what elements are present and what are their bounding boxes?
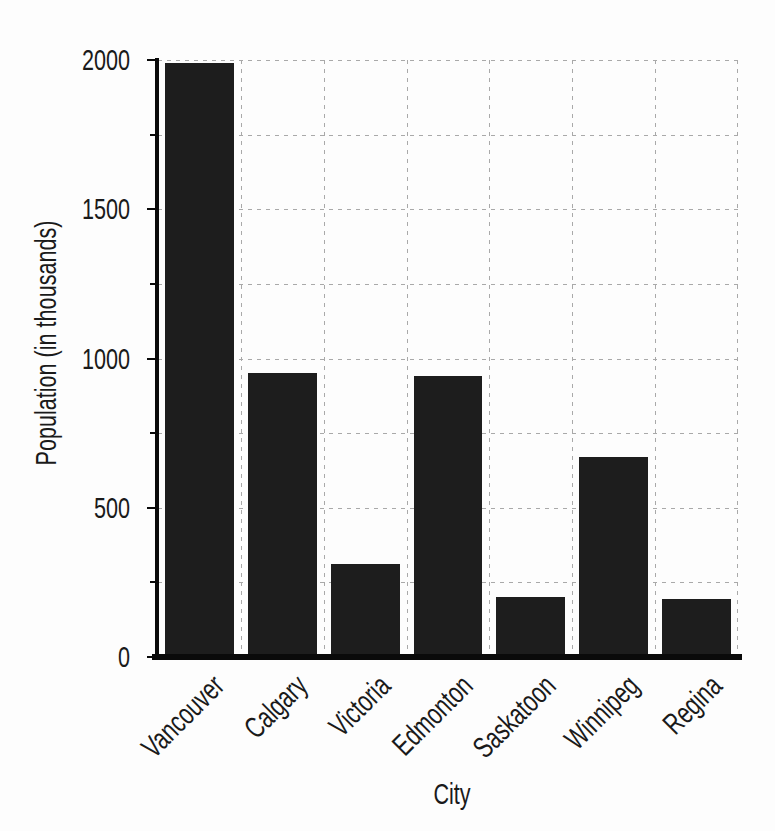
gridline-v-6 <box>655 60 656 657</box>
bar-edmonton <box>414 376 483 657</box>
gridline-v-3 <box>407 60 408 657</box>
y-axis-line <box>155 58 159 660</box>
gridline-h-1000 <box>158 359 738 360</box>
x-tick-label-calgary: Calgary <box>239 670 313 744</box>
bar-victoria <box>331 564 400 657</box>
x-tick-label-saskatoon: Saskatoon <box>468 670 561 763</box>
y-tick-2000 <box>147 59 155 61</box>
x-tick-label-regina: Regina <box>657 670 727 740</box>
bar-regina <box>662 599 731 657</box>
bar-vancouver <box>165 63 234 657</box>
x-tick-label-vancouver: Vancouver <box>137 670 230 763</box>
x-tick-label-edmonton: Edmonton <box>387 670 478 761</box>
gridline-h-2000 <box>158 60 738 61</box>
y-tick-label-500: 500 <box>36 492 130 524</box>
x-tick-label-victoria: Victoria <box>323 670 395 742</box>
y-tick-label-1000: 1000 <box>36 343 130 375</box>
gridline-v-2 <box>324 60 325 657</box>
x-tick-label-winnipeg: Winnipeg <box>559 670 644 755</box>
bar-calgary <box>248 373 317 657</box>
x-axis-line <box>152 654 742 660</box>
y-tick-label-1500: 1500 <box>36 193 130 225</box>
y-tick-1000 <box>147 358 155 360</box>
bar-chart-figure: Population (in thousands) City 050010001… <box>0 0 775 831</box>
gridline-h-1250 <box>158 284 738 285</box>
y-tick-label-2000: 2000 <box>36 44 130 76</box>
gridline-v-1 <box>241 60 242 657</box>
y-tick-0 <box>147 656 155 658</box>
y-tick-1500 <box>147 208 155 210</box>
bar-winnipeg <box>579 457 648 657</box>
gridline-h-1500 <box>158 209 738 210</box>
gridline-v-7 <box>737 60 738 657</box>
x-axis-title: City <box>380 778 524 810</box>
y-tick-500 <box>147 507 155 509</box>
gridline-v-4 <box>489 60 490 657</box>
y-tick-1250 <box>150 283 155 285</box>
gridline-v-5 <box>572 60 573 657</box>
y-tick-750 <box>150 432 155 434</box>
bar-saskatoon <box>496 597 565 657</box>
y-tick-1750 <box>150 134 155 136</box>
plot-area <box>158 60 738 657</box>
y-tick-label-0: 0 <box>36 641 130 673</box>
gridline-h-1750 <box>158 135 738 136</box>
y-tick-250 <box>150 581 155 583</box>
